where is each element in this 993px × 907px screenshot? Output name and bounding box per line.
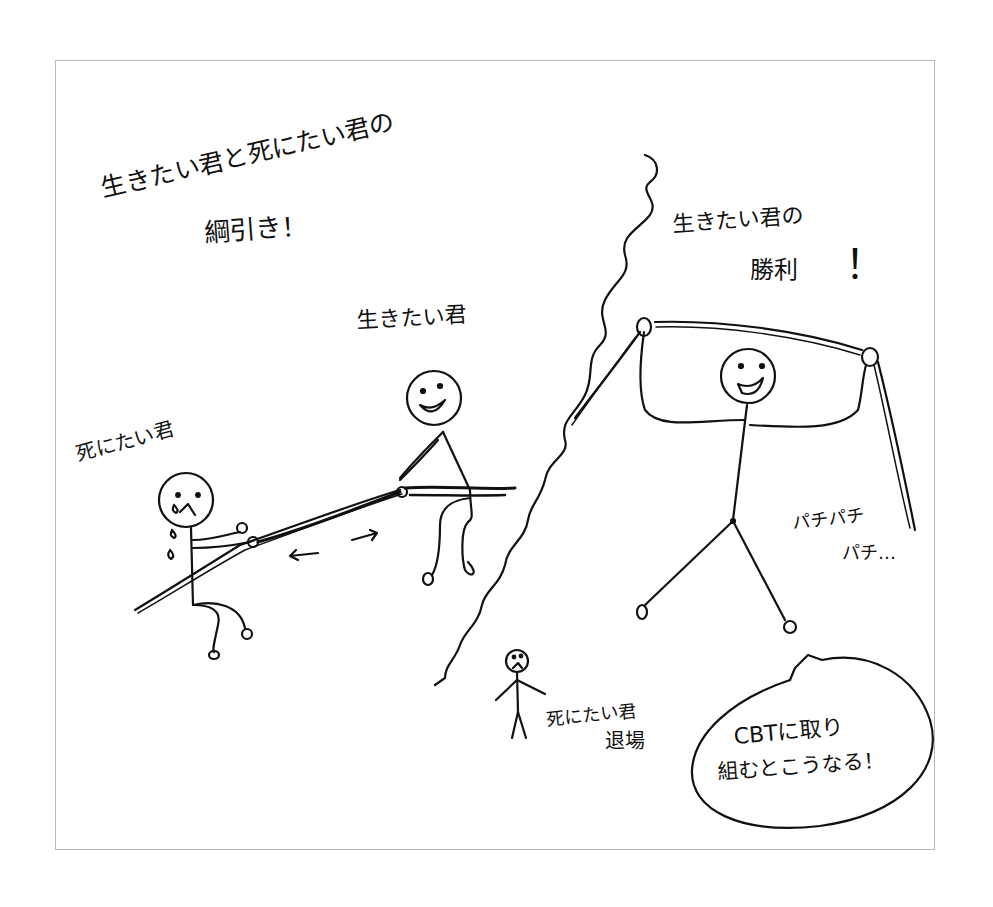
victory-exclamation: ！	[845, 232, 885, 290]
pull-arrows	[290, 530, 377, 560]
victory-line-2: 勝利	[750, 250, 798, 285]
winner-figure	[572, 318, 915, 633]
arrow-left-icon	[290, 550, 318, 560]
arrow-right-icon	[352, 530, 377, 540]
exit-label-2: 退場	[605, 725, 645, 754]
exiting-die-kun-figure	[496, 650, 545, 738]
label-live-kun: 生きたい君	[355, 296, 467, 334]
wavy-divider	[435, 155, 657, 685]
live-kun-figure	[397, 371, 474, 585]
clap-sound-2: パチ…	[842, 538, 896, 564]
die-kun-figure	[159, 473, 258, 659]
title-line-2: 綱引き！	[202, 205, 308, 249]
